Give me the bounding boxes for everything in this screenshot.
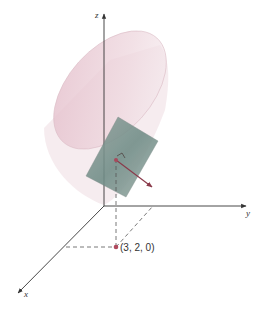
point-label: (3, 2, 0) <box>120 242 154 253</box>
tangent-point <box>114 158 118 162</box>
y-guide <box>116 206 153 247</box>
z-axis-label: z <box>94 10 99 20</box>
base-point <box>114 245 119 250</box>
x-axis-label: x <box>23 289 28 299</box>
diagram-canvas: z y x (3, 2, 0) <box>0 0 262 309</box>
x-axis <box>18 206 104 293</box>
y-axis-label: y <box>245 208 250 218</box>
